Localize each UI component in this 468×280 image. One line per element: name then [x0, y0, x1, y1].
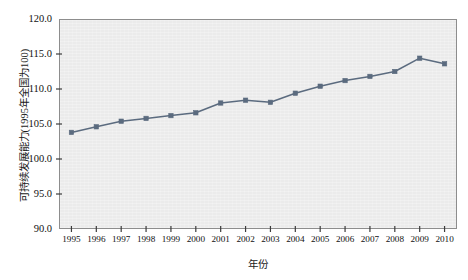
data-point-marker	[119, 119, 123, 123]
data-point-marker	[194, 111, 198, 115]
data-point-marker	[318, 84, 322, 88]
data-point-marker	[417, 56, 421, 60]
data-series-overlay	[0, 0, 468, 280]
data-point-marker	[393, 69, 397, 73]
data-point-marker	[243, 98, 247, 102]
x-axis-title: 年份	[58, 256, 458, 271]
data-point-marker	[442, 62, 446, 66]
data-point-marker	[169, 113, 173, 117]
data-point-marker	[268, 100, 272, 104]
data-point-marker	[218, 101, 222, 105]
data-point-marker	[144, 116, 148, 120]
chart-figure: 可持续发展能力(1995年全国为100) 120.0115.0110.0105.…	[0, 0, 468, 280]
data-point-marker	[293, 91, 297, 95]
data-point-marker	[94, 125, 98, 129]
series-line	[71, 58, 444, 132]
data-point-marker	[69, 130, 73, 134]
data-point-marker	[368, 74, 372, 78]
data-point-marker	[343, 78, 347, 82]
